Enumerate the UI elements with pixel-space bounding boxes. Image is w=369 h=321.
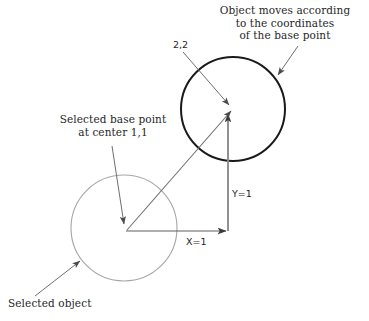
destination-circle xyxy=(181,57,285,161)
label-target-coordinate: 2,2 xyxy=(173,39,188,50)
object-moves-leader-line xyxy=(278,46,298,75)
annotation-selected-base-point: Selected base point at center 1,1 xyxy=(52,113,174,138)
base-point-leader-line xyxy=(112,146,124,224)
diagram-canvas: Object moves according to the coordinate… xyxy=(0,0,369,321)
selected-object-leader-line xyxy=(35,261,80,296)
label-x-displacement: X=1 xyxy=(186,236,207,247)
annotation-object-moves: Object moves according to the coordinate… xyxy=(205,4,365,42)
annotation-selected-object: Selected object xyxy=(8,297,128,310)
label-y-displacement: Y=1 xyxy=(232,188,252,199)
